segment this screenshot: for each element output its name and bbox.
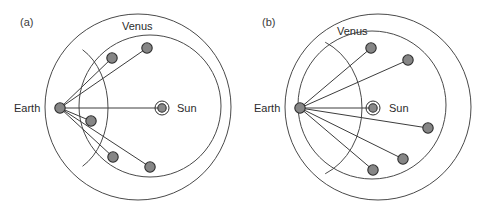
earth-label: Earth <box>254 102 280 114</box>
venus-position-5 <box>145 162 155 172</box>
earth-marker <box>295 103 305 113</box>
sight-line-to-venus-1 <box>60 48 147 108</box>
venus-orbit-figure: (a)EarthSunVenus(b)EarthSunVenus <box>0 0 479 208</box>
venus-position-2 <box>403 55 413 65</box>
panel-b: (b)EarthSunVenus <box>254 14 471 200</box>
venus-position-3 <box>86 116 96 126</box>
earth-orbit-circle <box>45 14 231 200</box>
venus-label: Venus <box>337 25 368 37</box>
sight-line-to-venus-1 <box>300 48 371 108</box>
panel-a: (a)EarthSunVenus <box>14 14 231 200</box>
sun-label: Sun <box>389 102 409 114</box>
venus-position-3 <box>423 123 433 133</box>
venus-position-4 <box>108 152 118 162</box>
sun-marker <box>369 104 377 112</box>
venus-position-1 <box>142 43 152 53</box>
venus-label: Venus <box>122 20 153 32</box>
venus-orbit-circle <box>79 35 221 177</box>
sight-line-to-venus-2 <box>300 60 408 108</box>
sight-line-to-venus-5 <box>60 108 150 167</box>
panel-label-a: (a) <box>20 16 33 28</box>
earth-marker <box>55 103 65 113</box>
panel-label-b: (b) <box>262 16 275 28</box>
sun-label: Sun <box>177 102 197 114</box>
venus-position-1 <box>366 43 376 53</box>
earth-label: Earth <box>14 102 40 114</box>
venus-position-5 <box>368 165 378 175</box>
venus-position-4 <box>398 154 408 164</box>
figure-canvas: (a)EarthSunVenus(b)EarthSunVenus <box>0 0 479 208</box>
venus-position-2 <box>107 53 117 63</box>
sun-marker <box>158 104 166 112</box>
